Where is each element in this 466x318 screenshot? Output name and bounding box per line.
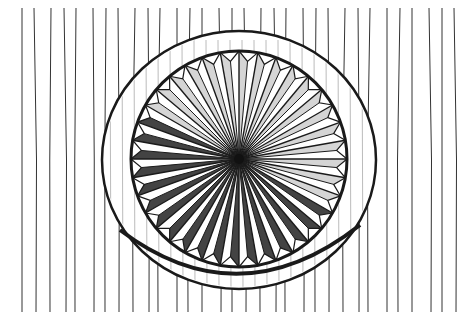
rosette-carving <box>131 51 347 267</box>
rosette-illustration <box>0 0 466 318</box>
